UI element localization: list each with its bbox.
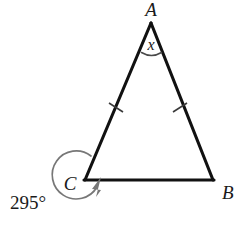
vertex-label-C: C <box>64 173 77 194</box>
vertex-label-B: B <box>222 182 234 203</box>
triangle-side-AB <box>151 23 213 180</box>
triangle-side-AC <box>85 23 151 180</box>
reflex-angle-label-295: 295° <box>10 192 46 213</box>
geometry-canvas: A B C x 295° <box>0 0 247 227</box>
geometry-figure: A B C x 295° <box>0 0 247 227</box>
vertex-label-A: A <box>143 0 157 20</box>
angle-label-x: x <box>146 36 154 53</box>
